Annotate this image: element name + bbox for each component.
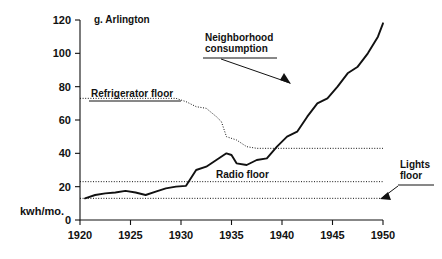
annotation-radio-floor: Radio floor (216, 169, 269, 180)
x-tick-label: 1945 (320, 229, 344, 241)
y-tick-label: 20 (59, 181, 71, 193)
x-tick-label: 1950 (371, 229, 395, 241)
annotation-lights-floor: Lights floor (380, 159, 434, 200)
x-tick-label: 1920 (68, 229, 92, 241)
panel-title: g. Arlington (94, 14, 150, 25)
radio-floor-label: Radio floor (216, 169, 269, 180)
annotation-refrigerator-floor: Refrigerator floor (89, 88, 181, 101)
series-refrigerator-floor (80, 98, 383, 148)
neighborhood-consumption-label-line1: Neighborhood (205, 32, 273, 43)
lights-floor-label-line1: Lights (400, 159, 430, 170)
y-tick-label: 40 (59, 147, 71, 159)
y-tick-labels: 020406080100120 (53, 14, 71, 226)
x-tick-label: 1935 (219, 229, 243, 241)
lights-floor-arrow-icon (380, 192, 391, 200)
neighborhood-consumption-arrow-icon (280, 73, 291, 84)
x-tick-label: 1925 (118, 229, 142, 241)
refrigerator-floor-label: Refrigerator floor (91, 88, 173, 99)
neighborhood-consumption-label-line2: consumption (205, 43, 268, 54)
x-tick-label: 1930 (169, 229, 193, 241)
lights-floor-label-line2: floor (400, 170, 422, 181)
x-tick-labels: 1920192519301935194019451950 (68, 229, 395, 241)
annotation-neighborhood-consumption: Neighborhood consumption (203, 32, 291, 84)
chart-figure: 020406080100120 192019251930193519401945… (0, 0, 442, 259)
y-tick-label: 60 (59, 114, 71, 126)
y-tick-label: 120 (53, 14, 71, 26)
y-tick-label: 100 (53, 47, 71, 59)
x-tick-label: 1940 (270, 229, 294, 241)
y-tick-label: 80 (59, 81, 71, 93)
y-tick-label: 0 (65, 214, 71, 226)
chart-canvas: 020406080100120 192019251930193519401945… (0, 0, 442, 259)
neighborhood-consumption-leader (221, 59, 290, 83)
y-axis-caption: kwh/mo. (20, 205, 64, 217)
